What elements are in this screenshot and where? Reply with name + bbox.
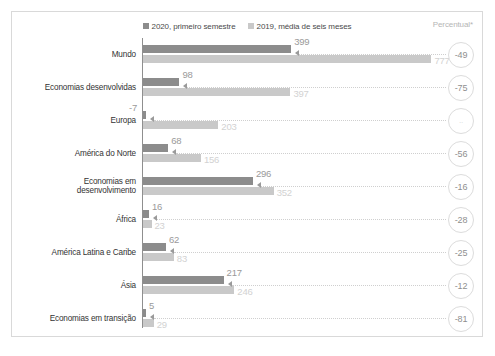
chart-row: América do Norte68156-56 [12, 137, 482, 170]
bar-value-2020: 5 [149, 300, 154, 311]
bar-value-2020: 217 [227, 267, 242, 278]
chart-legend: 2020, primeiro semestre 2019, média de s… [12, 18, 482, 34]
legend-label-2020: 2020, primeiro semestre [152, 22, 236, 31]
percent-change-badge: -25 [448, 240, 474, 266]
change-connector-line [174, 252, 446, 254]
bar-value-2019: 23 [155, 220, 165, 231]
percent-column-header: Percentual* [433, 20, 473, 29]
percent-change-badge: -49 [448, 42, 474, 68]
bar-2019 [143, 154, 201, 162]
bar-2020 [143, 243, 166, 251]
bar-2019 [143, 319, 154, 327]
bar-group: -7203 [143, 110, 482, 131]
category-label: Economias desenvolvidas [12, 83, 136, 93]
percent-change-badge: -56 [448, 141, 474, 167]
chart-row: Economias em transição529-81 [12, 302, 482, 335]
bar-2020 [143, 210, 149, 218]
chart-row: Europa-7203.. [12, 104, 482, 137]
bar-value-2019: 83 [177, 253, 187, 264]
bar-value-2020: 68 [171, 135, 181, 146]
bar-2019 [143, 253, 174, 261]
bar-2019 [143, 220, 152, 228]
bar-value-2020: 16 [152, 201, 162, 212]
percent-change-badge: .. [448, 108, 474, 134]
bar-2020 [143, 309, 146, 317]
chart-row: Mundo399777-49 [12, 38, 482, 71]
change-connector-line [154, 120, 446, 122]
square-swatch-dark-icon [143, 23, 149, 29]
chart-row: África1623-28 [12, 203, 482, 236]
bar-group: 68156 [143, 143, 482, 164]
bar-2020 [143, 276, 224, 284]
bar-value-2020: -7 [129, 102, 137, 113]
bar-value-2019: 397 [293, 88, 308, 99]
bar-group: 98397 [143, 77, 482, 98]
change-connector-line [261, 186, 446, 188]
change-connector-line [232, 285, 446, 287]
change-connector-line [187, 87, 446, 89]
percent-change-badge: -81 [448, 306, 474, 332]
bar-2019 [143, 286, 234, 294]
bar-2020 [143, 78, 179, 86]
change-connector-line [299, 54, 446, 56]
bar-value-2019: 156 [204, 154, 219, 165]
bar-2019 [143, 121, 218, 129]
bar-value-2020: 62 [169, 234, 179, 245]
bar-2020 [143, 177, 253, 185]
chart-row: Economias desenvolvidas98397-75 [12, 71, 482, 104]
legend-item-2020: 2020, primeiro semestre [143, 22, 236, 31]
bar-value-2020: 98 [182, 69, 192, 80]
bar-2020 [143, 144, 168, 152]
category-label: Europa [12, 116, 136, 126]
change-connector-line [154, 318, 446, 320]
bar-2019 [143, 187, 274, 195]
bar-group: 399777 [143, 44, 482, 65]
chart-frame: 2020, primeiro semestre 2019, média de s… [11, 11, 483, 337]
change-connector-line [157, 219, 446, 221]
bar-group: 296352 [143, 176, 482, 197]
bar-2020 [143, 45, 291, 53]
square-swatch-light-icon [248, 23, 254, 29]
percent-change-badge: -75 [448, 75, 474, 101]
legend-label-2019: 2019, média de seis meses [257, 22, 352, 31]
chart-row: Economias em desenvolvimento296352-16 [12, 170, 482, 203]
percent-change-badge: -16 [448, 174, 474, 200]
bar-value-2020: 296 [256, 168, 271, 179]
bar-value-2020: 399 [294, 36, 309, 47]
bar-value-2019: 246 [237, 286, 252, 297]
bar-2020 [143, 111, 146, 119]
bar-group: 217246 [143, 275, 482, 296]
category-label: América Latina e Caribe [12, 248, 136, 258]
change-connector-line [176, 153, 446, 155]
bar-group: 529 [143, 308, 482, 329]
category-label: Economias em desenvolvimento [12, 177, 136, 196]
category-label: Ásia [12, 281, 136, 291]
bar-2019 [143, 55, 431, 63]
chart-row: Ásia217246-12 [12, 269, 482, 302]
category-label: América do Norte [12, 149, 136, 159]
category-label: Mundo [12, 50, 136, 60]
legend-item-2019: 2019, média de seis meses [248, 22, 352, 31]
percent-change-badge: -12 [448, 273, 474, 299]
category-label: África [12, 215, 136, 225]
bar-value-2019: 352 [277, 187, 292, 198]
percent-change-badge: -28 [448, 207, 474, 233]
plot-area: Mundo399777-49Economias desenvolvidas983… [12, 36, 482, 332]
category-label: Economias em transição [12, 314, 136, 324]
bar-group: 6283 [143, 242, 482, 263]
bar-2019 [143, 88, 290, 96]
chart-row: América Latina e Caribe6283-25 [12, 236, 482, 269]
bar-value-2019: 203 [221, 121, 236, 132]
bar-group: 1623 [143, 209, 482, 230]
bar-value-2019: 29 [157, 319, 167, 330]
